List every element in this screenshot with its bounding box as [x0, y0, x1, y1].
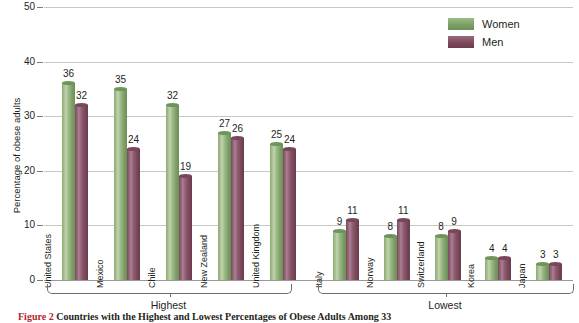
- y-tick-mark-10: [37, 225, 43, 226]
- bar-body: [498, 258, 511, 280]
- bar-value-label: 24: [123, 135, 145, 145]
- bar-body: [333, 231, 346, 280]
- axis-baseline: [44, 280, 573, 281]
- figure-caption-number: Figure 2: [18, 311, 54, 322]
- bar-body: [384, 236, 397, 280]
- bar-top-ellipse: [536, 262, 549, 266]
- bar-body: [166, 105, 179, 280]
- gridline-50: [44, 7, 573, 8]
- chart-plot-area: 01020304050 Percentage of obese adults 3…: [0, 0, 579, 323]
- y-tick-label-0: 0: [0, 275, 35, 285]
- x-axis-label-united-kingdom: United Kingdom: [251, 224, 261, 288]
- bar-men-japan: [549, 264, 562, 280]
- bar-top-ellipse: [333, 229, 346, 233]
- bar-value-label: 24: [279, 135, 301, 145]
- bar-body: [114, 89, 127, 280]
- y-tick-mark-50: [37, 7, 43, 8]
- y-tick-label-50: 50: [0, 2, 35, 12]
- bar-body: [485, 258, 498, 280]
- bar-body: [435, 236, 448, 280]
- legend-swatch-women-icon: [448, 18, 474, 30]
- bar-top-ellipse: [549, 262, 562, 266]
- y-tick-mark-30: [37, 116, 43, 117]
- group-label-lowest: Lowest: [318, 299, 572, 311]
- bar-value-label: 9: [443, 217, 465, 227]
- bar-top-ellipse: [397, 218, 410, 222]
- bar-men-mexico: [127, 149, 140, 280]
- bar-women-united-states: [62, 83, 75, 280]
- y-tick-mark-20: [37, 171, 43, 172]
- bar-men-switzerland: [448, 231, 461, 280]
- bar-women-mexico: [114, 89, 127, 280]
- x-axis-label-united-states: United States: [43, 234, 53, 288]
- bar-women-norway: [384, 236, 397, 280]
- bar-men-united-kingdom: [283, 149, 296, 280]
- bar-top-ellipse: [127, 147, 140, 151]
- bar-top-ellipse: [114, 87, 127, 91]
- bar-value-label: 3: [545, 250, 567, 260]
- legend-swatch-men-icon: [448, 36, 474, 48]
- bar-body: [536, 264, 549, 280]
- bar-value-label: 36: [58, 69, 80, 79]
- legend-label-women: Women: [482, 18, 520, 30]
- bar-top-ellipse: [283, 147, 296, 151]
- bar-body: [179, 176, 192, 280]
- bar-value-label: 19: [175, 162, 197, 172]
- bar-top-ellipse: [448, 229, 461, 233]
- bar-body: [218, 133, 231, 280]
- bar-women-japan: [536, 264, 549, 280]
- figure-caption: Figure 2 Countries with the Highest and …: [18, 311, 563, 322]
- bar-body: [62, 83, 75, 280]
- bracket-center-nub: [446, 293, 447, 297]
- bar-body: [127, 149, 140, 280]
- group-bracket-highest: [47, 284, 292, 294]
- bar-men-korea: [498, 258, 511, 280]
- bar-men-united-states: [75, 105, 88, 280]
- bar-body: [283, 149, 296, 280]
- bar-women-switzerland: [435, 236, 448, 280]
- bar-body: [448, 231, 461, 280]
- y-axis-label: Percentage of obese adults: [11, 81, 22, 231]
- bar-women-united-kingdom: [270, 144, 283, 281]
- bar-body: [549, 264, 562, 280]
- bar-women-italy: [333, 231, 346, 280]
- gridline-40: [44, 62, 573, 63]
- bar-men-new-zealand: [231, 138, 244, 280]
- x-axis-label-new-zealand: New Zealand: [199, 235, 209, 288]
- bar-men-norway: [397, 220, 410, 280]
- bracket-center-nub: [170, 293, 171, 297]
- x-axis-label-switzerland: Switzerland: [416, 241, 426, 288]
- figure-obese-adults-chart: 01020304050 Percentage of obese adults 3…: [0, 0, 579, 323]
- figure-caption-text: Countries with the Highest and Lowest Pe…: [56, 311, 391, 322]
- bar-body: [75, 105, 88, 280]
- bar-value-label: 11: [342, 206, 364, 216]
- bar-value-label: 4: [494, 244, 516, 254]
- bar-women-new-zealand: [218, 133, 231, 280]
- bar-value-label: 35: [110, 75, 132, 85]
- y-tick-label-40: 40: [0, 57, 35, 67]
- bar-value-label: 32: [71, 91, 93, 101]
- bar-body: [397, 220, 410, 280]
- bar-women-korea: [485, 258, 498, 280]
- group-bracket-lowest: [318, 284, 574, 294]
- y-tick-mark-40: [37, 62, 43, 63]
- bar-body: [231, 138, 244, 280]
- group-label-highest: Highest: [47, 299, 290, 311]
- bar-body: [270, 144, 283, 281]
- bar-top-ellipse: [346, 218, 359, 222]
- bar-men-italy: [346, 220, 359, 280]
- bar-value-label: 32: [162, 91, 184, 101]
- bar-women-chile: [166, 105, 179, 280]
- bar-body: [346, 220, 359, 280]
- bar-men-chile: [179, 176, 192, 280]
- legend-label-men: Men: [482, 36, 503, 48]
- bar-value-label: 26: [227, 124, 249, 134]
- bar-value-label: 11: [392, 206, 414, 216]
